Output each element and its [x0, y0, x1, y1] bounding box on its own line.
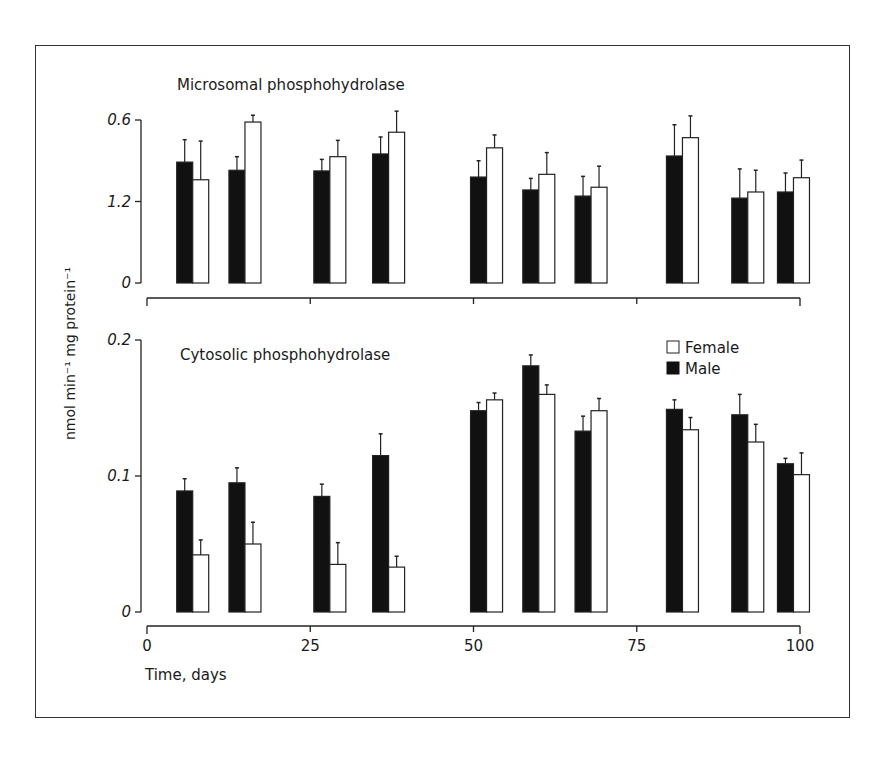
x-tick-label: 50 — [464, 637, 483, 655]
x-tick-label: 75 — [627, 637, 646, 655]
y-axis-label: nmol min⁻¹ mg protein⁻¹ — [62, 267, 78, 440]
legend-female-label: Female — [685, 339, 739, 357]
female-bar — [193, 180, 209, 283]
x-tick-label: 100 — [786, 637, 815, 655]
male-bar — [666, 156, 682, 283]
male-bar — [471, 411, 487, 612]
female-bar — [487, 400, 503, 612]
female-bar — [330, 564, 346, 612]
male-bar — [373, 456, 389, 612]
legend: Female Male — [667, 339, 739, 378]
female-bar — [793, 178, 809, 283]
female-bar — [748, 192, 764, 283]
female-bar — [245, 122, 261, 283]
male-bar — [373, 154, 389, 283]
female-bar — [591, 187, 607, 283]
male-bar — [523, 366, 539, 612]
x-tick-label: 0 — [142, 637, 152, 655]
bottom-panel-title: Cytosolic phosphohydrolase — [180, 346, 390, 364]
female-bar — [487, 148, 503, 283]
male-bar — [732, 415, 748, 612]
female-bar — [591, 411, 607, 612]
y-tick-label: 0.1 — [107, 467, 131, 485]
male-bar — [177, 162, 193, 283]
male-bar — [177, 491, 193, 612]
female-bar — [389, 132, 405, 283]
female-bar — [193, 555, 209, 612]
y-tick-label: 0 — [121, 603, 131, 621]
male-bar — [777, 464, 793, 612]
x-tick-label: 25 — [301, 637, 320, 655]
y-tick-label: 0.6 — [107, 111, 131, 129]
male-bar — [777, 192, 793, 283]
bar-chart: Microsomal phosphohydrolase Cytosolic ph… — [0, 0, 877, 763]
female-bar — [682, 138, 698, 283]
female-bar — [748, 442, 764, 612]
female-bar — [389, 567, 405, 612]
male-bar — [471, 177, 487, 283]
top-panel-title: Microsomal phosphohydrolase — [177, 76, 405, 94]
y-tick-label: 1.2 — [107, 193, 131, 211]
y-tick-label: 0 — [121, 274, 131, 292]
female-bar — [330, 157, 346, 283]
male-bar — [732, 198, 748, 283]
male-bar — [229, 170, 245, 283]
female-bar — [682, 430, 698, 612]
female-bar — [539, 394, 555, 612]
y-tick-label: 0.2 — [107, 331, 131, 349]
male-bar — [575, 196, 591, 283]
legend-male-label: Male — [685, 360, 721, 378]
male-bar — [314, 496, 330, 612]
x-axis-label: Time, days — [144, 666, 227, 684]
female-bar — [793, 475, 809, 612]
legend-male-swatch — [667, 362, 679, 374]
male-bar — [314, 171, 330, 283]
male-bar — [523, 190, 539, 283]
top-panel-plot: 01.20.6 — [107, 111, 809, 292]
legend-female-swatch — [667, 341, 679, 353]
female-bar — [245, 544, 261, 612]
male-bar — [229, 483, 245, 612]
female-bar — [539, 174, 555, 283]
male-bar — [666, 409, 682, 612]
male-bar — [575, 431, 591, 612]
